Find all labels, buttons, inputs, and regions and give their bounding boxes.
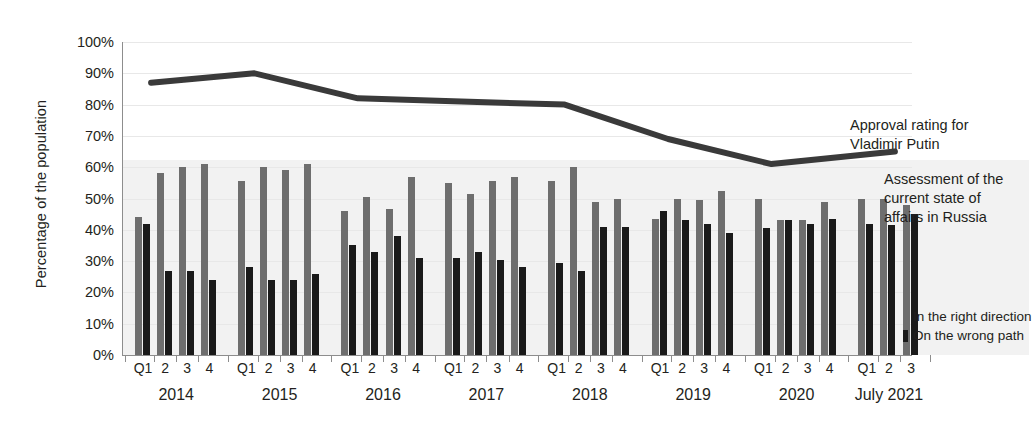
x-axis-tick	[405, 355, 406, 362]
x-axis-tick	[258, 355, 259, 362]
y-tick-label: 70%	[54, 128, 114, 144]
x-quarter-label: Q1	[134, 360, 153, 376]
y-tick-label: 50%	[54, 191, 114, 207]
x-quarter-label: Q1	[858, 360, 877, 376]
bar-right	[408, 177, 415, 355]
bar-right	[592, 202, 599, 355]
x-axis-tick	[383, 355, 384, 362]
x-quarter-label: 3	[494, 360, 502, 376]
bar-right	[445, 183, 452, 355]
bar-wrong	[704, 224, 711, 355]
bar-wrong	[246, 267, 253, 355]
line-annotation-line2: Vladimir Putin	[850, 135, 1025, 154]
x-axis-tick	[435, 355, 436, 362]
y-tick-label: 80%	[54, 97, 114, 113]
x-quarter-label: 3	[287, 360, 295, 376]
bar-wrong	[416, 258, 423, 355]
y-tick-label: 90%	[54, 65, 114, 81]
x-axis-tick	[361, 355, 362, 362]
x-year-label: 2020	[779, 386, 815, 404]
bar-wrong	[497, 260, 504, 355]
bar-wrong	[187, 271, 194, 356]
bar-right	[511, 177, 518, 355]
y-tick-label: 0%	[54, 347, 114, 363]
bar-right	[489, 181, 496, 355]
x-axis-tick	[302, 355, 303, 362]
bar-wrong	[268, 280, 275, 355]
x-year-label: 2017	[469, 386, 505, 404]
x-axis-tick	[693, 355, 694, 362]
bar-right	[777, 220, 784, 355]
bar-wrong	[763, 228, 770, 355]
bar-wrong	[600, 227, 607, 355]
x-axis-tick	[331, 355, 332, 362]
bar-right	[467, 194, 474, 355]
x-axis-tick	[848, 355, 849, 362]
x-quarter-label: 2	[678, 360, 686, 376]
x-axis-tick	[642, 355, 643, 362]
legend-swatch-icon	[903, 330, 908, 342]
y-tick-label: 10%	[54, 316, 114, 332]
bar-right	[674, 199, 681, 356]
x-quarter-label: Q1	[237, 360, 256, 376]
bar-wrong	[726, 233, 733, 355]
bar-wrong	[622, 227, 629, 355]
bar-wrong	[888, 225, 895, 355]
x-year-label: 2014	[158, 386, 194, 404]
bar-wrong	[371, 252, 378, 355]
x-quarter-label: 2	[782, 360, 790, 376]
bar-right	[570, 167, 577, 355]
x-axis-tick	[509, 355, 510, 362]
x-axis-tick	[486, 355, 487, 362]
x-axis-tick	[125, 355, 126, 362]
bar-wrong	[209, 280, 216, 355]
bar-wrong	[519, 267, 526, 355]
line-annotation-line1: Approval rating for	[850, 116, 1025, 135]
x-axis-tick	[819, 355, 820, 362]
line-annotation: Approval rating for Vladimir Putin	[850, 116, 1025, 154]
x-quarter-label: 3	[804, 360, 812, 376]
x-quarter-label: 4	[205, 360, 213, 376]
bars-annotation: Assessment of the current state of affai…	[884, 170, 1029, 227]
y-tick-label: 20%	[54, 284, 114, 300]
x-axis: Q12342014Q12342015Q12342016Q12342017Q123…	[122, 355, 912, 417]
bar-right	[652, 219, 659, 355]
x-quarter-label: 2	[885, 360, 893, 376]
x-axis-tick	[228, 355, 229, 362]
bar-right	[386, 209, 393, 355]
bar-right	[201, 164, 208, 355]
bar-wrong	[785, 220, 792, 355]
x-quarter-label: 2	[368, 360, 376, 376]
x-quarter-label: 3	[907, 360, 915, 376]
x-axis-tick	[198, 355, 199, 362]
bar-wrong	[660, 211, 667, 355]
bar-wrong	[829, 219, 836, 355]
x-quarter-label: 2	[265, 360, 273, 376]
bar-right	[260, 167, 267, 355]
bars-annotation-line2: current state of	[884, 189, 1029, 208]
bar-wrong	[290, 280, 297, 355]
bar-right	[718, 191, 725, 355]
x-axis-tick	[154, 355, 155, 362]
x-quarter-label: 2	[161, 360, 169, 376]
x-axis-tick	[878, 355, 879, 362]
y-tick-label: 30%	[54, 253, 114, 269]
y-tick-label: 60%	[54, 159, 114, 175]
bar-right	[821, 202, 828, 355]
bar-wrong	[475, 252, 482, 355]
bar-wrong	[578, 271, 585, 356]
legend-label: In the right direction	[913, 309, 1032, 324]
bar-wrong	[682, 220, 689, 355]
bar-right	[548, 181, 555, 355]
y-tick-label: 40%	[54, 222, 114, 238]
x-axis-tick	[671, 355, 672, 362]
x-quarter-label: 4	[516, 360, 524, 376]
y-axis-title: Percentage of the population	[33, 49, 49, 339]
x-axis-tick	[900, 355, 901, 362]
x-axis-tick	[590, 355, 591, 362]
legend-item: On the wrong path	[903, 326, 1029, 345]
bar-right	[282, 170, 289, 355]
x-quarter-label: 3	[390, 360, 398, 376]
bars-annotation-line1: Assessment of the	[884, 170, 1029, 189]
